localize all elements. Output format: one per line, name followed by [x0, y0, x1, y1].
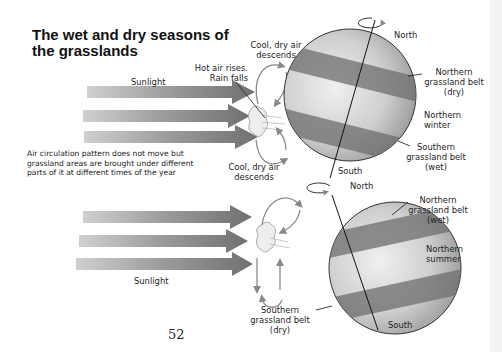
hot-air-label: Hot air rises. Rain falls — [192, 63, 248, 83]
sunlight-arrows-bottom — [76, 205, 253, 276]
nb-bot-1: Northern — [408, 195, 468, 205]
cool-air-bottom-line-1: Cool, dry air — [224, 162, 284, 172]
south-label-top: South — [338, 166, 362, 176]
north-label-bottom: North — [350, 181, 373, 191]
sb-top-2: grassland belt — [406, 152, 466, 162]
season-label-bottom: Northern summer — [426, 244, 463, 264]
sb-bot-3: (dry) — [247, 325, 313, 335]
page-number: 52 — [168, 327, 185, 342]
nb-bot-3: (wet) — [408, 215, 468, 225]
nb-bot-2: grassland belt — [408, 205, 468, 215]
sb-top-1: Southern — [406, 142, 466, 152]
sb-top-3: (wet) — [406, 162, 466, 172]
southern-belt-label-bottom: Southern grassland belt (dry) — [247, 305, 313, 335]
season-bot-1: Northern — [426, 244, 463, 254]
circulation-note: Air circulation pattern does not move bu… — [27, 149, 207, 178]
diagram-title: The wet and dry seasons of the grassland… — [32, 27, 232, 59]
cool-air-top-line-1: Cool, dry air — [246, 40, 306, 50]
sb-bot-2: grassland belt — [247, 315, 313, 325]
northern-belt-label-bottom: Northern grassland belt (wet) — [408, 195, 468, 225]
nb-top-1: Northern — [424, 67, 484, 77]
season-label-top: Northern winter — [424, 110, 461, 130]
south-label-bottom: South — [388, 320, 412, 330]
season-bot-2: summer — [426, 254, 463, 264]
air-circulation-bottom — [256, 198, 300, 307]
northern-belt-label-top: Northern grassland belt (dry) — [424, 67, 484, 97]
nb-top-2: grassland belt — [424, 77, 484, 87]
cool-air-bottom-label: Cool, dry air descends — [224, 162, 284, 182]
north-label-top: North — [394, 30, 417, 40]
sb-bot-1: Southern — [247, 305, 313, 315]
season-top-2: winter — [424, 120, 461, 130]
season-top-1: Northern — [424, 110, 461, 120]
southern-belt-label-top: Southern grassland belt (wet) — [406, 142, 466, 172]
hot-air-line-2: Rain falls — [192, 73, 248, 83]
sunlight-label-bottom: Sunlight — [134, 276, 169, 286]
hot-air-line-1: Hot air rises. — [192, 63, 248, 73]
nb-top-3: (dry) — [424, 87, 484, 97]
cool-air-top-line-2: descends — [246, 50, 306, 60]
cool-air-top-label: Cool, dry air descends — [246, 40, 306, 60]
cool-air-bottom-line-2: descends — [224, 172, 284, 182]
sunlight-arrows-top — [83, 80, 258, 149]
sunlight-label-top: Sunlight — [131, 77, 166, 87]
